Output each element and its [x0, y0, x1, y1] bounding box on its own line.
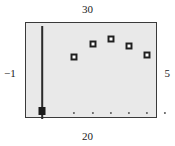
error-bar-line	[41, 26, 43, 119]
baseline-dot	[146, 112, 148, 114]
axis-label-left: −1	[4, 68, 16, 79]
baseline-dot	[92, 112, 94, 114]
data-point-marker	[144, 52, 151, 59]
data-point-marker	[90, 41, 97, 48]
plot-frame	[25, 22, 157, 118]
baseline-dot	[110, 112, 112, 114]
baseline-dot	[164, 112, 166, 114]
data-point-marker	[126, 43, 133, 50]
axis-label-bottom: 20	[0, 131, 175, 142]
baseline-dot	[73, 112, 75, 114]
plot-area	[26, 23, 156, 117]
axis-label-right: 5	[165, 68, 171, 79]
error-bar-marker	[39, 107, 46, 115]
data-point-marker	[108, 36, 115, 43]
baseline-dot	[128, 112, 130, 114]
scatter-plot-figure: 30 20 −1 5	[0, 0, 175, 146]
axis-label-top: 30	[0, 4, 175, 15]
data-point-marker	[71, 54, 78, 61]
